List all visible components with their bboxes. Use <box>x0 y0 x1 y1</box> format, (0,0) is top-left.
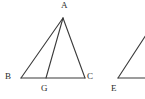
geometry-canvas <box>0 0 145 99</box>
geometry-figure: A B C G E <box>0 0 145 99</box>
vertex-label-c: C <box>87 72 93 81</box>
vertex-label-a: A <box>61 1 68 10</box>
vertex-label-b: B <box>5 72 11 81</box>
vertex-label-e: E <box>111 84 117 93</box>
vertex-label-g: G <box>41 84 48 93</box>
figure-background <box>0 0 145 99</box>
